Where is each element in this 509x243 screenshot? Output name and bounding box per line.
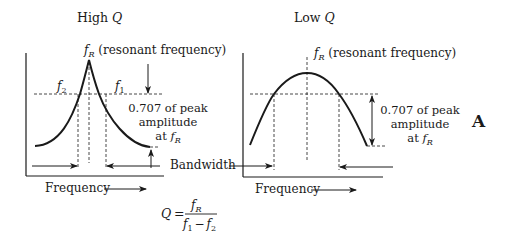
q-formula: Q = fR f1−f2 [161, 198, 217, 233]
f2-label: f2 [56, 79, 67, 95]
low-q-x-axis-label: Frequency [255, 182, 320, 196]
high-q-amplitude-line3: at fR [155, 129, 180, 145]
high-q-amplitude-line2: amplitude [139, 115, 198, 129]
bandwidth-label: Bandwidth [170, 158, 236, 172]
formula-denominator: f1−f2 [182, 217, 216, 233]
formula-numerator: fR [190, 198, 201, 214]
high-q-peak-label: fR (resonant frequency) [83, 43, 226, 59]
low-q-panel: Low Q fR (resonant frequency) 0.707 of p… [243, 10, 461, 196]
f1-label: f1 [114, 79, 125, 95]
high-q-panel: High Q fR (resonant frequency) f2 f1 0.7… [26, 10, 236, 195]
formula-lhs: Q [161, 206, 171, 221]
high-q-amplitude-line1: 0.707 of peak [128, 101, 208, 115]
low-q-response-curve [250, 73, 367, 146]
low-q-amplitude-line3: at fR [407, 131, 432, 147]
low-q-title: Low Q [294, 10, 335, 25]
figure-label: A [471, 111, 486, 131]
low-q-amplitude-line1: 0.707 of peak [380, 103, 460, 117]
high-q-title: High Q [77, 10, 122, 25]
high-q-x-axis-label: Frequency [45, 181, 110, 195]
low-q-peak-label: fR (resonant frequency) [313, 46, 456, 62]
resonance-q-diagram: High Q fR (resonant frequency) f2 f1 0.7… [0, 0, 509, 243]
low-q-amplitude-line2: amplitude [391, 117, 450, 131]
